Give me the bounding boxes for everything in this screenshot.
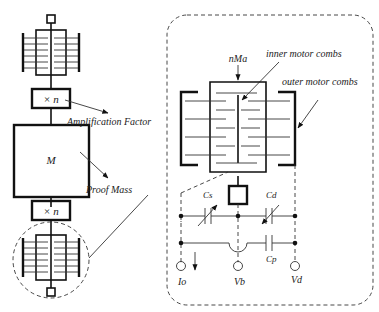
detail-comb-drive <box>181 82 295 172</box>
bottom-amplifier-label: × n <box>43 205 59 217</box>
outer-combs-annotation: outer motor combs <box>282 76 358 87</box>
terminal-io <box>177 262 186 271</box>
mass-label: M <box>45 154 56 166</box>
top-anchor <box>47 15 55 23</box>
detail-anchor <box>229 186 247 204</box>
top-amplifier-label: × n <box>43 93 59 105</box>
inner-combs-annotation: inner motor combs <box>266 48 342 59</box>
cp-label: Cp <box>266 254 277 264</box>
terminal-vd <box>291 262 300 271</box>
terminal-vb <box>234 262 243 271</box>
detail-view: nMa inner motor combs outer motor combs <box>167 15 373 305</box>
left-column: × n M × n Amp <box>13 15 151 298</box>
nma-label: nMa <box>229 53 247 64</box>
top-comb-drive <box>23 30 79 75</box>
bottom-anchor <box>47 288 55 296</box>
amplification-annotation: Amplification Factor <box>66 116 151 127</box>
vb-label: Vb <box>234 276 245 287</box>
diagram-canvas: × n M × n Amp <box>0 0 379 312</box>
bottom-comb-drive <box>23 235 79 280</box>
mems-diagram: × n M × n Amp <box>0 0 379 312</box>
proof-mass-annotation: Proof Mass <box>85 184 132 195</box>
cd-label: Cd <box>266 190 277 200</box>
vd-label: Vd <box>291 274 303 285</box>
io-label: Io <box>177 276 186 287</box>
cs-label: Cs <box>203 190 213 200</box>
